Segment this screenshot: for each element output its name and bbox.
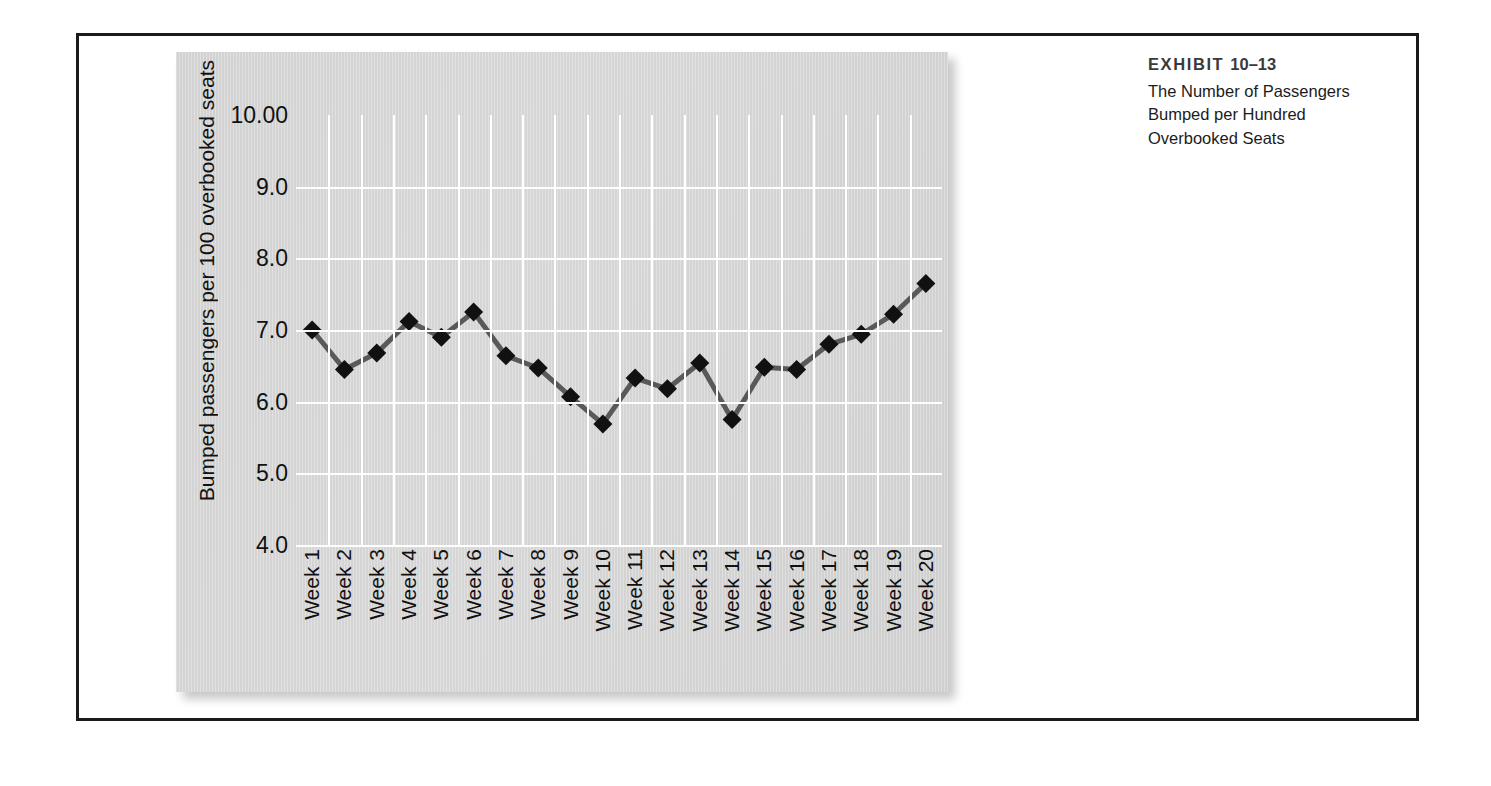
horizontal-gridline bbox=[296, 545, 942, 547]
x-axis-tick-label: Week 16 bbox=[785, 549, 809, 684]
x-axis-tick-label: Week 8 bbox=[526, 549, 550, 684]
vertical-gridline bbox=[554, 115, 556, 545]
caption-line-2: Bumped per Hundred bbox=[1148, 103, 1398, 126]
vertical-gridline bbox=[522, 115, 524, 545]
x-axis-tick-label-text: Week 12 bbox=[655, 549, 679, 632]
y-axis-tick-labels: 10.009.08.07.06.05.04.0 bbox=[214, 0, 288, 786]
x-axis-tick-label: Week 10 bbox=[591, 549, 615, 684]
x-axis-tick-label: Week 15 bbox=[752, 549, 776, 684]
exhibit-label: EXHIBIT bbox=[1148, 55, 1224, 73]
exhibit-caption: EXHIBIT10–13 The Number of Passengers Bu… bbox=[1148, 55, 1398, 150]
x-axis-tick-label-text: Week 20 bbox=[914, 549, 938, 632]
x-axis-tick-label: Week 1 bbox=[300, 549, 324, 684]
x-axis-tick-label-text: Week 10 bbox=[591, 549, 615, 632]
vertical-gridline bbox=[361, 115, 363, 545]
x-axis-tick-label-text: Week 15 bbox=[752, 549, 776, 632]
x-axis-tick-label: Week 5 bbox=[429, 549, 453, 684]
y-axis-tick-label: 4.0 bbox=[256, 532, 288, 559]
vertical-gridline bbox=[587, 115, 589, 545]
y-axis-tick-label: 5.0 bbox=[256, 460, 288, 487]
x-axis-tick-label-text: Week 19 bbox=[882, 549, 906, 632]
x-axis-tick-label: Week 7 bbox=[494, 549, 518, 684]
vertical-gridline bbox=[748, 115, 750, 545]
x-axis-tick-label: Week 18 bbox=[849, 549, 873, 684]
x-axis-tick-label-text: Week 3 bbox=[365, 549, 389, 620]
x-axis-tick-label-text: Week 11 bbox=[623, 549, 647, 630]
y-axis-tick-label: 6.0 bbox=[256, 388, 288, 415]
x-axis-tick-label: Week 3 bbox=[365, 549, 389, 684]
vertical-gridline bbox=[684, 115, 686, 545]
caption-line-3: Overbooked Seats bbox=[1148, 127, 1398, 150]
x-axis-tick-label: Week 4 bbox=[397, 549, 421, 684]
vertical-gridline bbox=[910, 115, 912, 545]
vertical-gridline bbox=[845, 115, 847, 545]
vertical-gridline bbox=[877, 115, 879, 545]
plot-area bbox=[296, 115, 942, 545]
x-axis-tick-label: Week 6 bbox=[462, 549, 486, 684]
vertical-gridline bbox=[716, 115, 718, 545]
vertical-gridline bbox=[813, 115, 815, 545]
vertical-gridline bbox=[781, 115, 783, 545]
x-axis-tick-label: Week 13 bbox=[688, 549, 712, 684]
vertical-gridline bbox=[328, 115, 330, 545]
vertical-gridline bbox=[651, 115, 653, 545]
vertical-gridline bbox=[425, 115, 427, 545]
vertical-gridline bbox=[393, 115, 395, 545]
x-axis-tick-label-text: Week 1 bbox=[300, 549, 324, 620]
x-axis-tick-labels: Week 1Week 2Week 3Week 4Week 5Week 6Week… bbox=[296, 549, 942, 689]
x-axis-tick-label-text: Week 7 bbox=[494, 549, 518, 620]
x-axis-tick-label-text: Week 6 bbox=[462, 549, 486, 620]
x-axis-tick-label-text: Week 14 bbox=[720, 549, 744, 632]
x-axis-tick-label: Week 2 bbox=[332, 549, 356, 684]
caption-line-1: The Number of Passengers bbox=[1148, 80, 1398, 103]
x-axis-tick-label: Week 9 bbox=[559, 549, 583, 684]
x-axis-tick-label: Week 17 bbox=[817, 549, 841, 684]
exhibit-title: EXHIBIT10–13 bbox=[1148, 55, 1398, 74]
x-axis-tick-label-text: Week 18 bbox=[849, 549, 873, 632]
x-axis-tick-label-text: Week 9 bbox=[559, 549, 583, 620]
x-axis-tick-label: Week 14 bbox=[720, 549, 744, 684]
x-axis-tick-label-text: Week 2 bbox=[332, 549, 356, 620]
vertical-gridline bbox=[490, 115, 492, 545]
x-axis-tick-label-text: Week 5 bbox=[429, 549, 453, 620]
y-axis-tick-label: 10.00 bbox=[230, 102, 288, 129]
x-axis-tick-label: Week 11 bbox=[623, 549, 647, 684]
x-axis-tick-label: Week 19 bbox=[882, 549, 906, 684]
exhibit-number: 10–13 bbox=[1230, 55, 1276, 73]
vertical-gridline bbox=[619, 115, 621, 545]
vertical-gridline bbox=[458, 115, 460, 545]
y-axis-tick-label: 9.0 bbox=[256, 173, 288, 200]
x-axis-tick-label-text: Week 17 bbox=[817, 549, 841, 632]
y-axis-tick-label: 8.0 bbox=[256, 245, 288, 272]
y-axis-tick-label: 7.0 bbox=[256, 317, 288, 344]
exhibit-description: The Number of Passengers Bumped per Hund… bbox=[1148, 80, 1398, 150]
x-axis-tick-label-text: Week 16 bbox=[785, 549, 809, 632]
x-axis-tick-label-text: Week 4 bbox=[397, 549, 421, 620]
x-axis-tick-label-text: Week 8 bbox=[526, 549, 550, 620]
x-axis-tick-label: Week 20 bbox=[914, 549, 938, 684]
x-axis-tick-label: Week 12 bbox=[655, 549, 679, 684]
x-axis-tick-label-text: Week 13 bbox=[688, 549, 712, 632]
